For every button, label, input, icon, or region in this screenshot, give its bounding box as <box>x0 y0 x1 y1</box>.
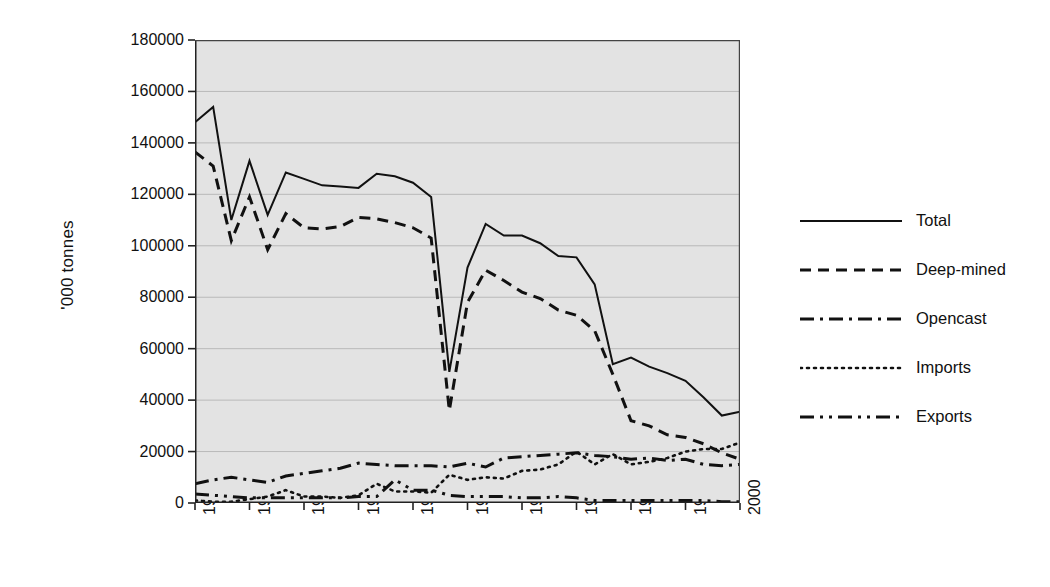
legend-label: Opencast <box>916 309 987 328</box>
series-line-deep-mined <box>195 152 740 459</box>
series-line-exports <box>195 480 740 502</box>
plot-area <box>195 40 740 503</box>
legend-swatch-dotted <box>800 361 902 375</box>
chart-legend: TotalDeep-minedOpencastImportsExports <box>800 196 1040 441</box>
legend-swatch-solid <box>800 214 902 228</box>
legend-item[interactable]: Exports <box>800 392 1040 441</box>
legend-item[interactable]: Imports <box>800 343 1040 392</box>
legend-item[interactable]: Opencast <box>800 294 1040 343</box>
legend-swatch-dashdotdot <box>800 410 902 424</box>
x-tick-label: 2000 <box>747 479 763 515</box>
plot-lines <box>195 40 740 503</box>
legend-item[interactable]: Deep-mined <box>800 245 1040 294</box>
legend-item[interactable]: Total <box>800 196 1040 245</box>
legend-swatch-dashed <box>800 263 902 277</box>
chart-figure: '000 tonnes 1800001600001400001200001000… <box>0 0 1050 587</box>
legend-label: Deep-mined <box>916 260 1006 279</box>
legend-label: Imports <box>916 358 971 377</box>
legend-label: Exports <box>916 407 972 426</box>
series-line-total <box>195 107 740 416</box>
legend-label: Total <box>916 211 951 230</box>
legend-swatch-dashdot <box>800 312 902 326</box>
